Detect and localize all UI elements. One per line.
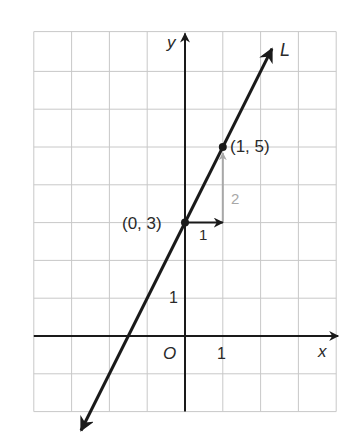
y-tick-label: 1 (169, 289, 178, 306)
point-label-0-3: (0, 3) (122, 214, 162, 233)
x-axis-label: x (317, 342, 327, 361)
y-axis-label: y (166, 33, 177, 52)
chart: y x O L 1 1 (0, 3) (1, 5) 1 2 (0, 0, 353, 440)
origin-label: O (163, 344, 176, 363)
point-label-1-5: (1, 5) (230, 137, 270, 156)
run-label: 1 (199, 226, 207, 243)
x-tick-label: 1 (217, 345, 226, 362)
rise-label: 2 (231, 190, 239, 207)
data-point (219, 143, 227, 151)
line-label: L (280, 40, 290, 60)
data-point (181, 219, 189, 227)
